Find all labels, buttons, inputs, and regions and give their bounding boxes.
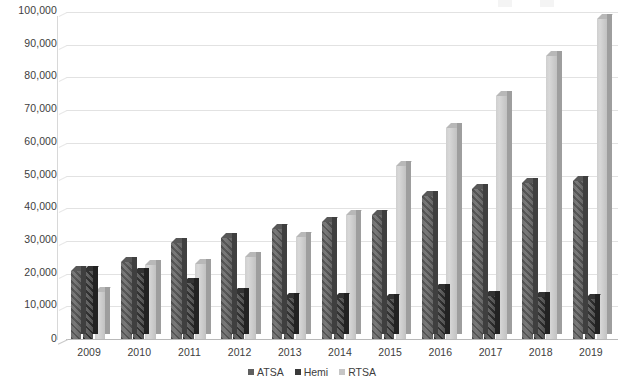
bar-front-face — [573, 181, 584, 339]
bar-side-face — [206, 259, 211, 334]
bar-side-face — [244, 288, 249, 334]
bar-chart: 100,00090,00080,00070,00060,00050,00040,… — [0, 0, 624, 388]
bar-atsa-2018 — [522, 183, 533, 339]
y-axis-tick-label: 20,000 — [2, 266, 57, 278]
bar-side-face — [81, 266, 86, 334]
gridline — [66, 110, 618, 111]
legend-label: ATSA — [257, 366, 284, 378]
gridline-cap — [59, 45, 68, 50]
bar-side-face — [306, 232, 311, 334]
bar-rtsa-2019 — [597, 19, 608, 339]
bar-atsa-2012 — [221, 238, 232, 339]
bar-front-face — [597, 19, 608, 339]
bar-side-face — [232, 233, 237, 334]
legend-label: RTSA — [348, 366, 376, 378]
bar-atsa-2011 — [171, 243, 182, 339]
legend-item-rtsa[interactable]: RTSA — [339, 366, 376, 378]
y-axis-line — [57, 16, 58, 340]
bar-atsa-2013 — [272, 229, 283, 339]
legend-label: Hemi — [304, 366, 329, 378]
gridline-cap — [59, 143, 68, 148]
bar-atsa-2009 — [71, 271, 82, 339]
bar-side-face — [595, 294, 600, 334]
bar-side-face — [607, 14, 612, 334]
bar-side-face — [394, 294, 399, 334]
bar-front-face — [322, 222, 333, 339]
bar-front-face — [272, 229, 283, 339]
gridline-cap — [59, 274, 68, 279]
bar-atsa-2014 — [322, 222, 333, 339]
y-axis-tick-label: 30,000 — [2, 233, 57, 245]
bar-side-face — [282, 224, 287, 334]
bar-front-face — [522, 183, 533, 339]
bar-side-face — [483, 184, 488, 334]
bar-side-face — [583, 176, 588, 334]
bar-side-face — [533, 178, 538, 334]
bar-side-face — [132, 257, 137, 334]
legend-swatch-icon — [339, 369, 345, 375]
bar-side-face — [445, 284, 450, 334]
bar-atsa-2016 — [422, 196, 433, 339]
legend-swatch-icon — [295, 369, 301, 375]
bar-front-face — [372, 215, 383, 339]
plot-area — [66, 12, 618, 339]
gridline — [66, 143, 618, 144]
x-axis-tick-label: 2019 — [561, 346, 621, 358]
bar-side-face — [457, 123, 462, 334]
bar-side-face — [406, 161, 411, 334]
bar-side-face — [356, 210, 361, 334]
gridline-cap — [59, 208, 68, 213]
crop-artifact-left — [498, 0, 512, 7]
bar-side-face — [382, 210, 387, 334]
y-axis-tick-label: 60,000 — [2, 135, 57, 147]
crop-artifact-right — [540, 0, 554, 7]
y-axis-tick-label: 10,000 — [2, 298, 57, 310]
bar-side-face — [545, 292, 550, 334]
bar-side-face — [144, 268, 149, 334]
bar-side-face — [294, 293, 299, 334]
gridline — [66, 45, 618, 46]
x-axis-line — [66, 339, 618, 340]
legend-item-atsa[interactable]: ATSA — [248, 366, 284, 378]
gridline — [66, 176, 618, 177]
bar-front-face — [121, 262, 132, 339]
bar-atsa-2010 — [121, 262, 132, 339]
bar-front-face — [71, 271, 82, 339]
bar-side-face — [433, 191, 438, 334]
bar-side-face — [344, 293, 349, 334]
y-axis-tick-label: 70,000 — [2, 102, 57, 114]
gridline-cap — [59, 110, 68, 115]
legend-item-hemi[interactable]: Hemi — [295, 366, 329, 378]
bar-side-face — [105, 287, 110, 334]
bar-front-face — [472, 189, 483, 339]
gridline-cap — [59, 77, 68, 82]
gridline-cap — [59, 176, 68, 181]
bar-atsa-2017 — [472, 189, 483, 339]
gridline-cap — [59, 306, 68, 311]
bar-side-face — [557, 51, 562, 334]
bar-side-face — [495, 291, 500, 334]
gridline — [66, 77, 618, 78]
x-axis-line-cap — [58, 339, 68, 345]
bar-front-face — [221, 238, 232, 339]
bar-side-face — [93, 266, 98, 334]
bar-side-face — [194, 278, 199, 334]
y-axis-tick-label: 100,000 — [2, 4, 57, 16]
y-axis-tick-label: 90,000 — [2, 37, 57, 49]
bar-atsa-2019 — [573, 181, 584, 339]
bar-side-face — [507, 91, 512, 334]
gridline — [66, 12, 618, 13]
gridline-cap — [59, 241, 68, 246]
bar-atsa-2015 — [372, 215, 383, 339]
y-axis-tick-label: 50,000 — [2, 168, 57, 180]
bar-side-face — [156, 260, 161, 334]
bar-side-face — [256, 252, 261, 334]
gridline-cap — [59, 12, 68, 17]
bar-side-face — [332, 217, 337, 334]
bar-front-face — [171, 243, 182, 339]
y-axis-tick-label: 0 — [2, 332, 57, 344]
y-axis-tick-label: 40,000 — [2, 200, 57, 212]
bar-side-face — [182, 238, 187, 334]
bar-front-face — [422, 196, 433, 339]
legend-swatch-icon — [248, 369, 254, 375]
